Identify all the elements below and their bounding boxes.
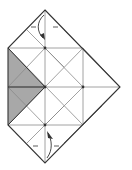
bottom-fold-arrow-icon bbox=[47, 131, 53, 158]
diagram-canvas bbox=[0, 0, 132, 170]
origami-diagram bbox=[0, 0, 132, 170]
top-fold-arrow-icon bbox=[38, 15, 45, 40]
reference-points bbox=[44, 47, 85, 127]
